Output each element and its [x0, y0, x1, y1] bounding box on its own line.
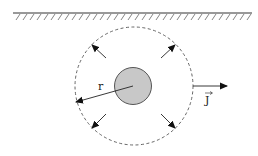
ground-surface [13, 13, 252, 20]
radial-arrow-top-right [161, 45, 175, 58]
radius-label: r [98, 80, 104, 93]
svg-text:J: J [204, 94, 209, 107]
diagram-canvas: r J [0, 0, 258, 156]
current-density-label: J [204, 92, 213, 108]
radial-arrow-top-left [92, 45, 106, 58]
radial-arrow-bottom-right [161, 114, 175, 128]
radial-arrow-bottom-left [92, 114, 106, 128]
